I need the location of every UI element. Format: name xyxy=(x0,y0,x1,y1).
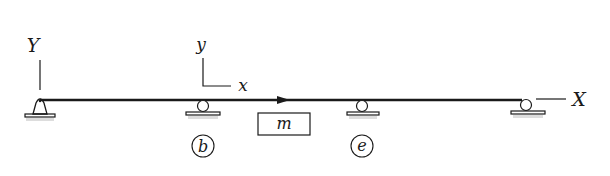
svg-text:m: m xyxy=(276,114,291,133)
roller-support-b xyxy=(186,101,220,120)
beam-diagram: Y y x b m e X xyxy=(0,0,610,176)
global-x-axis-label: X xyxy=(570,88,587,110)
direction-arrow-icon xyxy=(277,96,290,104)
support-e-label: e xyxy=(351,135,373,157)
local-y-axis-label: y xyxy=(195,34,206,54)
svg-text:e: e xyxy=(357,136,366,155)
local-x-axis-label: x xyxy=(238,75,248,95)
svg-text:b: b xyxy=(198,137,208,156)
roller-support-e xyxy=(347,101,379,120)
roller-support-right xyxy=(511,100,545,119)
global-y-axis-label: Y xyxy=(27,34,42,56)
support-b-label: b xyxy=(192,135,214,157)
mass-box: m xyxy=(258,113,310,135)
pin-support xyxy=(25,99,55,121)
local-axes-lines xyxy=(203,58,231,86)
